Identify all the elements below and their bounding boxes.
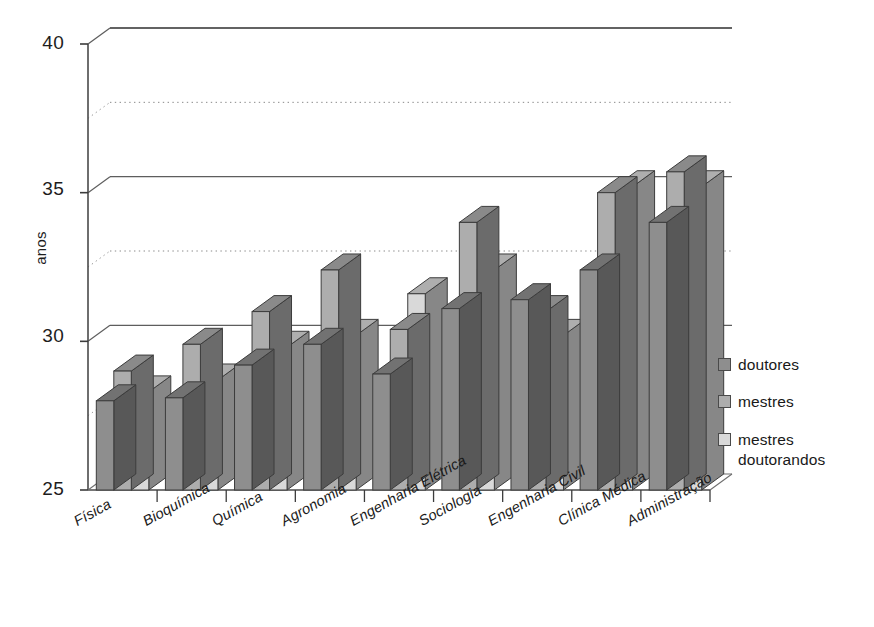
legend-item[interactable]: mestres — [718, 392, 868, 412]
legend-swatch-icon — [718, 358, 731, 371]
legend-label: mestres doutorandos — [738, 430, 868, 471]
legend-item[interactable]: mestres doutorandos — [718, 430, 868, 471]
legend-swatch-icon — [718, 395, 731, 408]
legend-swatch-icon — [718, 433, 731, 446]
bar — [373, 358, 413, 490]
legend-label: mestres — [738, 392, 794, 412]
legend-item[interactable]: doutores — [718, 355, 868, 375]
bar — [580, 254, 620, 490]
bar-series-group — [96, 156, 723, 490]
bar — [511, 284, 551, 490]
bar — [649, 206, 689, 490]
legend-label: doutores — [738, 355, 799, 375]
chart-page: anos 40 35 30 25 FísicaBioquímicaQuímica… — [0, 0, 874, 627]
chart-legend: doutoresmestresmestres doutorandos — [718, 355, 868, 488]
bar — [96, 385, 136, 490]
bar — [304, 328, 344, 490]
chart-plot-area — [0, 0, 874, 627]
bar — [165, 382, 205, 490]
bar — [235, 349, 275, 490]
